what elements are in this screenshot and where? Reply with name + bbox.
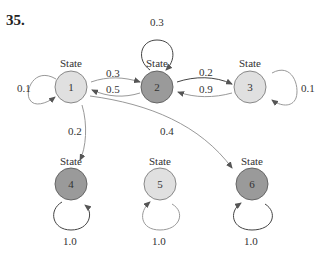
state-1: State 1: [55, 57, 87, 103]
edge-label-1-1: 0.1: [17, 82, 31, 94]
state-number: 5: [157, 178, 163, 190]
state-label: State: [241, 155, 263, 167]
edge-label-2-2: 0.3: [150, 16, 164, 28]
edge-label-3-2: 0.9: [199, 83, 213, 95]
state-4: State 4: [55, 155, 87, 200]
edge-label-2-1: 0.5: [106, 83, 120, 95]
edge-label-3-3: 0.1: [301, 82, 315, 94]
edge-label-5-5: 1.0: [152, 235, 166, 247]
edge-label-1-4: 0.2: [68, 125, 82, 137]
edge-label-1-2: 0.3: [106, 67, 120, 79]
edge-4-4: [54, 202, 90, 230]
edge-label-2-3: 0.2: [199, 66, 213, 78]
state-2: State 2: [141, 57, 173, 103]
edge-5-5: [143, 202, 180, 230]
state-5: State 5: [144, 155, 176, 200]
state-label: State: [60, 155, 82, 167]
edge-1-1: [28, 75, 56, 104]
state-number: 2: [154, 81, 160, 93]
edge-label-6-6: 1.0: [244, 235, 258, 247]
edge-6-6: [233, 203, 272, 230]
edge-3-3: [272, 70, 297, 105]
state-3: State 3: [234, 57, 266, 103]
state-label: State: [239, 57, 261, 69]
state-label: State: [60, 57, 82, 69]
markov-diagram: 0.1 0.3 0.5 0.3 0.2 0.9 0.1 0.2 0.4 1.0 …: [0, 0, 323, 256]
edge-label-1-6: 0.4: [160, 125, 174, 137]
state-number: 3: [247, 81, 253, 93]
state-number: 4: [68, 178, 74, 190]
state-number: 1: [68, 81, 74, 93]
state-number: 6: [249, 178, 255, 190]
state-label: State: [146, 57, 168, 69]
edge-label-4-4: 1.0: [63, 235, 77, 247]
state-6: State 6: [236, 155, 268, 200]
state-label: State: [149, 155, 171, 167]
